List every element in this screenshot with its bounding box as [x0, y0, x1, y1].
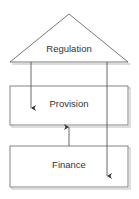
provision-label: Provision	[39, 98, 99, 109]
regulation-label: Regulation	[39, 43, 99, 54]
diagram: Regulation Provision Finance	[0, 0, 139, 199]
finance-label: Finance	[39, 159, 99, 170]
regulation-node	[10, 14, 128, 62]
